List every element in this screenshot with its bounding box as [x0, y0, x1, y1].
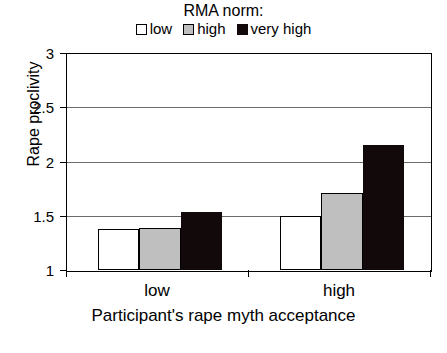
y-tick-label-1: 1 — [46, 263, 54, 278]
legend-swatch-low-icon — [136, 24, 147, 35]
legend-title: RMA norm: — [0, 2, 447, 20]
bar-chart-figure: RMA norm: low high very high 3 2.5 2 1.5… — [0, 0, 447, 353]
legend-swatch-high-icon — [183, 24, 194, 35]
x-tick-mark-left — [66, 270, 67, 277]
y-tick-mark-2 — [60, 162, 66, 163]
legend-item-low: low — [136, 21, 173, 37]
x-cat-label-low: low — [97, 281, 217, 301]
legend-label-low: low — [150, 21, 173, 37]
gridline-2_5 — [67, 107, 431, 108]
legend-label-high: high — [197, 21, 225, 37]
legend-item-high: high — [183, 21, 225, 37]
y-tick-mark-2_5 — [60, 107, 66, 108]
legend-swatch-very-high-icon — [237, 24, 248, 35]
x-cat-label-high: high — [279, 281, 399, 301]
legend-item-very-high: very high — [237, 21, 312, 37]
chart-legend: RMA norm: low high very high — [0, 2, 447, 37]
y-tick-mark-3 — [60, 53, 66, 54]
y-axis-title: Rape proclivity — [25, 14, 43, 214]
x-tick-mark-right — [430, 270, 431, 277]
gridline-2 — [67, 162, 431, 163]
legend-items: low high very high — [0, 21, 447, 37]
y-axis: 3 2.5 2 1.5 1 Rape proclivity — [0, 0, 66, 353]
x-axis-title: Participant's rape myth acceptance — [0, 306, 447, 326]
legend-label-very-high: very high — [251, 21, 312, 37]
plot-area — [66, 53, 432, 272]
y-tick-mark-1_5 — [60, 216, 66, 217]
y-tick-label-3: 3 — [46, 46, 54, 61]
y-tick-label-2: 2 — [46, 155, 54, 170]
gridline-1_5 — [67, 216, 431, 217]
x-tick-mark-mid — [248, 270, 249, 277]
